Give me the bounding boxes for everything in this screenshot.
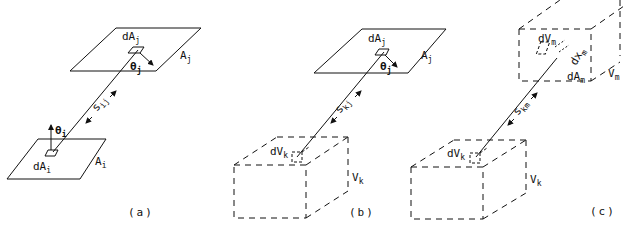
label-vk: Vk — [530, 173, 542, 188]
label-daj: dAj — [368, 32, 386, 47]
label-skj: skj — [332, 95, 354, 117]
ray-skj — [297, 52, 384, 157]
label-dam: dAm — [567, 70, 585, 85]
label-aj-b: Aj — [421, 49, 432, 64]
label-vk: Vk — [352, 171, 364, 186]
volume-vk — [234, 137, 348, 218]
distance-arrow-low — [508, 119, 514, 125]
label-dvm: dVm — [538, 32, 556, 47]
label-vm: Vm — [608, 67, 620, 82]
label-dvk: dVk — [447, 147, 465, 162]
label-dai: dAi — [33, 160, 51, 175]
label-dxm: dxm — [567, 45, 589, 68]
distance-arrow-low — [86, 117, 92, 123]
label-theta-j: θj — [380, 60, 391, 75]
label-dvk: dVk — [270, 145, 288, 160]
caption-b: (b) — [349, 206, 375, 219]
label-ai: Ai — [95, 155, 107, 170]
label-skm: skm — [510, 97, 532, 119]
volume-vk — [411, 140, 526, 219]
panel-b: dAj θj skj dVk Vk (b) — [234, 29, 446, 219]
element-dvk — [292, 147, 309, 162]
element-dvk — [470, 148, 487, 163]
label-theta-i: θi — [55, 124, 67, 139]
element-dai — [45, 150, 58, 156]
distance-arrow-high — [110, 91, 116, 97]
caption-a: (a) — [128, 206, 154, 219]
caption-c: (c) — [590, 205, 616, 218]
panel-a: dAj Aj θj sij θi dAi Ai (a) — [7, 28, 201, 219]
label-daj: dAj — [122, 30, 140, 45]
label-theta-j: θj — [130, 60, 141, 75]
distance-arrow-high — [355, 91, 361, 97]
label-aj: Aj — [180, 49, 191, 64]
distance-arrow-low — [331, 117, 337, 123]
radiation-exchange-diagram: dAj Aj θj sij θi dAi Ai (a) — [0, 0, 624, 226]
surface-ai — [7, 139, 106, 179]
normal-arrow-j — [140, 53, 153, 65]
distance-arrow-high — [531, 93, 537, 99]
